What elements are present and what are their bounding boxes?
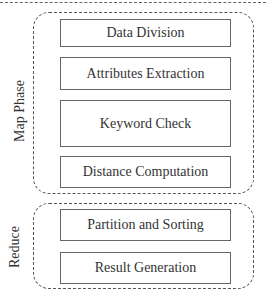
step-keyword-check: Keyword Check [60,100,231,147]
map-phase-label: Map Phase [12,71,28,151]
step-result-generation: Result Generation [60,252,231,284]
step-data-division: Data Division [60,19,231,47]
top-dashed-border [0,0,266,3]
step-distance-computation: Distance Computation [60,156,231,188]
reduce-label: Reduce [7,222,23,272]
step-partition-and-sorting: Partition and Sorting [60,209,231,241]
step-attributes-extraction: Attributes Extraction [60,57,231,90]
